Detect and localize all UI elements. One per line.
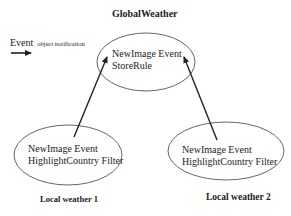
local-weather-2-label: Local weather 2 <box>206 193 271 203</box>
local2-node-line2: HighlightCountry Filter <box>182 156 277 168</box>
local1-node-line1: NewImage Event <box>28 143 123 155</box>
legend-event-word: Event <box>10 37 33 48</box>
edge-local1-to-global <box>74 57 107 137</box>
local-weather-1-label: Local weather 1 <box>40 195 98 204</box>
local2-node-text: NewImage Event HighlightCountry Filter <box>182 144 277 168</box>
global-node-line1: NewImage Event <box>112 48 182 60</box>
legend-description: object notification <box>37 40 84 47</box>
local2-node-line1: NewImage Event <box>182 144 277 156</box>
global-node-line2: StoreRule <box>112 60 182 72</box>
local1-node-text: NewImage Event HighlightCountry Filter <box>28 143 123 167</box>
global-weather-title: GlobalWeather <box>112 9 178 19</box>
global-node-text: NewImage Event StoreRule <box>112 48 182 72</box>
local1-node-line2: HighlightCountry Filter <box>28 155 123 167</box>
edge-local2-to-global <box>184 57 217 140</box>
legend: Event object notification <box>10 33 85 49</box>
